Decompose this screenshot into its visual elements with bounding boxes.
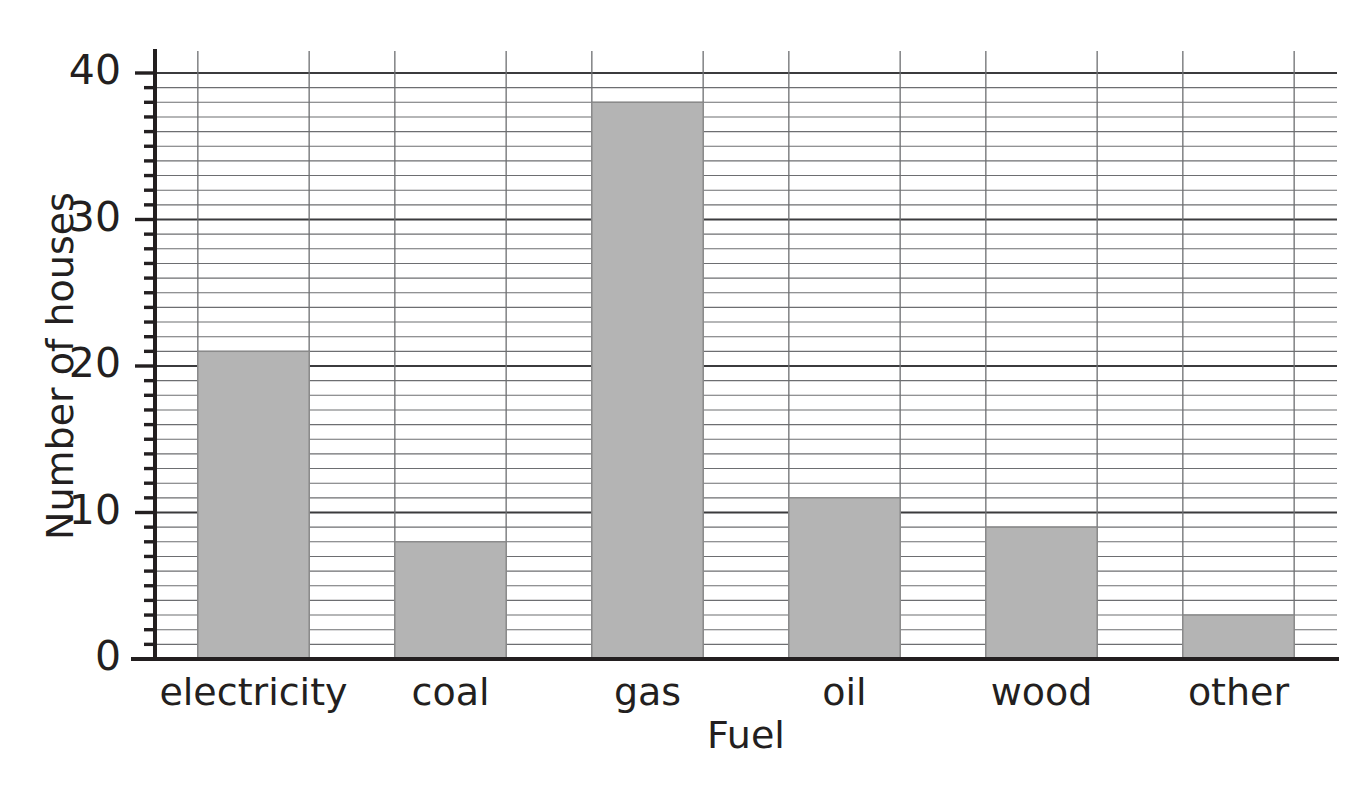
chart-canvas: 010203040 electricitycoalgasoilwoodother…	[0, 0, 1366, 785]
x-category-label-electricity: electricity	[159, 670, 347, 714]
bar-oil	[789, 498, 900, 659]
bar-coal	[395, 542, 506, 659]
bar-gas	[592, 102, 703, 659]
x-category-label-gas: gas	[614, 670, 681, 714]
y-axis-title: Number of houses	[38, 192, 82, 540]
x-category-label-other: other	[1188, 670, 1290, 714]
x-category-label-oil: oil	[822, 670, 866, 714]
x-category-label-coal: coal	[412, 670, 490, 714]
bar-wood	[986, 527, 1097, 659]
y-tick-label-0: 0	[95, 632, 121, 680]
bar-electricity	[198, 351, 309, 659]
y-tick-label-40: 40	[69, 46, 121, 94]
bar-other	[1183, 615, 1294, 659]
bar-chart-figure: 010203040 electricitycoalgasoilwoodother…	[0, 0, 1366, 785]
x-axis-title: Fuel	[707, 713, 785, 757]
x-category-label-wood: wood	[991, 670, 1093, 714]
